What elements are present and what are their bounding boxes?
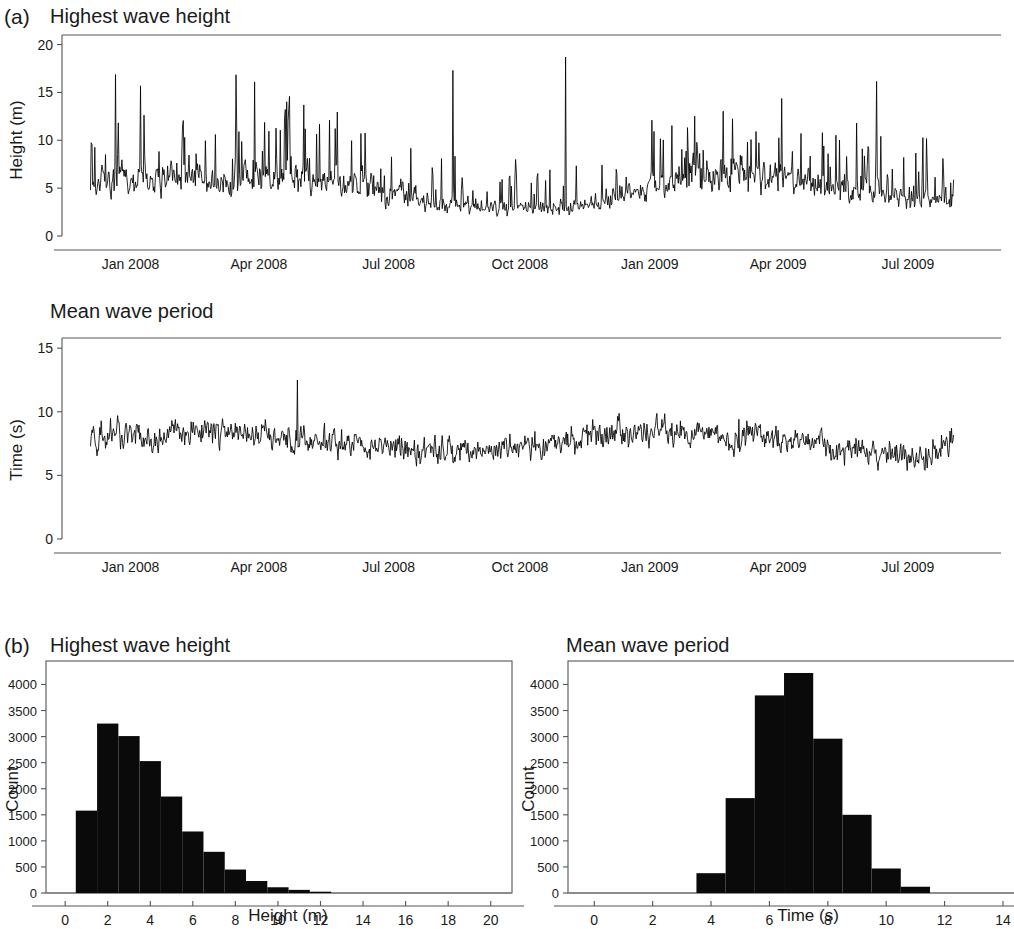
x-tick-label: Apr 2009 (750, 256, 807, 272)
y-tick-label: 0 (552, 886, 559, 901)
histogram-bar (755, 695, 784, 893)
y-tick-label: 20 (37, 37, 53, 53)
x-tick-label: 16 (398, 912, 414, 928)
x-tick-label: 4 (146, 912, 154, 928)
y-tick-label: 500 (537, 860, 559, 875)
histogram-bar (310, 892, 331, 893)
y-tick-label: 0 (30, 886, 37, 901)
x-tick-label: 0 (590, 912, 598, 928)
x-tick-label: 14 (995, 912, 1011, 928)
x-tick-label: 12 (313, 912, 329, 928)
y-tick-label: 0 (45, 228, 53, 244)
x-tick-label: Jan 2009 (621, 256, 679, 272)
chart-title-period: Mean wave period (50, 300, 213, 322)
histogram-bar (76, 811, 97, 893)
y-tick-label: 2500 (8, 756, 37, 771)
panel-a: (a) Highest wave height Height (m) 05101… (0, 0, 1014, 600)
histogram-bar (203, 852, 224, 893)
y-tick-label: 1500 (8, 808, 37, 823)
y-tick-label: 0 (45, 531, 53, 547)
timeseries-period-plot: 051015Jan 2008Apr 2008Jul 2008Oct 2008Ja… (37, 338, 1001, 575)
histogram-bar (267, 887, 288, 893)
y-tick-label: 1000 (8, 834, 37, 849)
y-tick-label: 3000 (530, 730, 559, 745)
histogram-bar (901, 887, 930, 893)
histogram-bar (289, 890, 310, 893)
figure-root: (a) Highest wave height Height (m) 05101… (0, 0, 1014, 929)
x-tick-label: Jul 2009 (881, 256, 934, 272)
histogram-bar (696, 873, 725, 893)
y-tick-label: 2000 (8, 782, 37, 797)
x-tick-label: 20 (483, 912, 499, 928)
data-series-line (91, 380, 954, 471)
histogram-bar (161, 797, 182, 893)
y-tick-label: 2500 (530, 756, 559, 771)
x-tick-label: 14 (355, 912, 371, 928)
y-tick-label: 500 (15, 860, 37, 875)
data-series-line (91, 57, 954, 216)
y-axis-title-period: Time (s) (7, 419, 26, 481)
histogram-bar (872, 868, 901, 893)
y-axis-title-height: Height (m) (7, 100, 26, 179)
x-tick-label: 12 (937, 912, 953, 928)
y-tick-label: 3500 (530, 704, 559, 719)
histogram-bar (784, 673, 813, 893)
histogram-bar (182, 831, 203, 893)
histogram-height-plot: 0500100015002000250030003500400002468101… (8, 661, 524, 928)
x-tick-label: 8 (824, 912, 832, 928)
x-tick-label: Jan 2009 (621, 559, 679, 575)
y-tick-label: 15 (37, 84, 53, 100)
x-tick-label: Jul 2009 (881, 559, 934, 575)
histogram-period-plot: 0500100015002000250030003500400002468101… (530, 661, 1014, 928)
panel-b-label: (b) (4, 634, 30, 657)
y-tick-label: 4000 (530, 677, 559, 692)
x-tick-label: Jul 2008 (362, 559, 415, 575)
x-tick-label: 0 (61, 912, 69, 928)
chart-title-height: Highest wave height (50, 5, 231, 27)
histogram-bar (140, 761, 161, 893)
timeseries-height-plot: 05101520Jan 2008Apr 2008Jul 2008Oct 2008… (37, 35, 1001, 272)
x-tick-label: 18 (440, 912, 456, 928)
x-tick-label: 8 (231, 912, 239, 928)
x-tick-label: 6 (189, 912, 197, 928)
x-tick-label: Apr 2008 (230, 559, 287, 575)
histogram-bar (225, 870, 246, 893)
y-tick-label: 10 (37, 132, 53, 148)
y-tick-label: 4000 (8, 677, 37, 692)
x-tick-label: 2 (649, 912, 657, 928)
y-tick-label: 3500 (8, 704, 37, 719)
y-tick-label: 3000 (8, 730, 37, 745)
y-tick-label: 15 (37, 340, 53, 356)
x-tick-label: 6 (766, 912, 774, 928)
y-tick-label: 1000 (530, 834, 559, 849)
histogram-bar (842, 815, 871, 893)
histogram-bar (726, 798, 755, 893)
hist-title-height: Highest wave height (50, 634, 231, 656)
x-tick-label: 4 (707, 912, 715, 928)
x-tick-label: Apr 2009 (750, 559, 807, 575)
x-tick-label: Jul 2008 (362, 256, 415, 272)
panel-b: (b) Highest wave height Count Height (m)… (0, 629, 1014, 929)
y-tick-label: 1500 (530, 808, 559, 823)
hist-title-period: Mean wave period (566, 634, 729, 656)
x-tick-label: Apr 2008 (230, 256, 287, 272)
y-tick-label: 5 (45, 180, 53, 196)
y-tick-label: 10 (37, 404, 53, 420)
x-tick-label: 10 (878, 912, 894, 928)
x-tick-label: 10 (270, 912, 286, 928)
x-tick-label: Oct 2008 (492, 559, 549, 575)
x-tick-label: 2 (104, 912, 112, 928)
y-tick-label: 2000 (530, 782, 559, 797)
panel-a-label: (a) (4, 5, 30, 28)
histogram-bar (246, 881, 267, 893)
histogram-bar (97, 724, 118, 893)
histogram-bar (813, 739, 842, 893)
x-tick-label: Jan 2008 (102, 256, 160, 272)
y-tick-label: 5 (45, 467, 53, 483)
x-tick-label: Oct 2008 (492, 256, 549, 272)
x-tick-label: Jan 2008 (102, 559, 160, 575)
histogram-bar (118, 736, 139, 893)
